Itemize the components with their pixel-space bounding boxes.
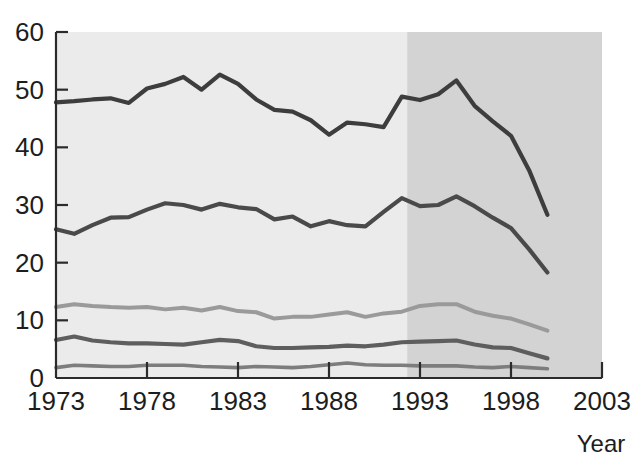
x-tick-label-2003: 2003 <box>573 386 631 416</box>
x-tick-label-1978: 1978 <box>118 386 176 416</box>
y-tick-label-20: 20 <box>15 248 44 278</box>
x-tick-label-1998: 1998 <box>482 386 540 416</box>
x-tick-label-1993: 1993 <box>391 386 449 416</box>
y-tick-label-50: 50 <box>15 75 44 105</box>
x-tick-label-1973: 1973 <box>27 386 85 416</box>
x-tick-label-1983: 1983 <box>209 386 267 416</box>
x-tick-label-1988: 1988 <box>300 386 358 416</box>
line-chart: 0102030405060197319781983198819931998200… <box>0 0 644 471</box>
y-tick-label-40: 40 <box>15 132 44 162</box>
y-tick-label-30: 30 <box>15 190 44 220</box>
chart-svg: 0102030405060197319781983198819931998200… <box>0 0 644 471</box>
x-axis-title: Year <box>577 430 626 457</box>
y-tick-label-10: 10 <box>15 305 44 335</box>
y-tick-label-60: 60 <box>15 17 44 47</box>
